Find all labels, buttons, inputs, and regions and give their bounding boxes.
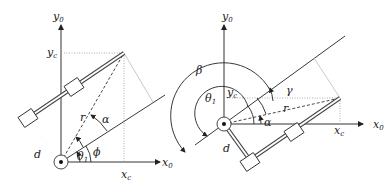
perpendicular-line (314, 58, 340, 98)
left-d-label: d (34, 148, 41, 161)
right-r-label: r (283, 102, 289, 115)
right-y0-label: y0 (221, 10, 233, 24)
right-alpha-label: α (264, 116, 272, 129)
right-gamma-label: γ (286, 84, 293, 97)
left-theta-label: θ1 (77, 150, 88, 164)
left-y0-label: y0 (52, 10, 64, 24)
inner-gamma-arc (257, 98, 266, 114)
right-panel: y0 x0 yc xc r α γ β θ1 d (171, 10, 385, 171)
robot-arm-kinematics-diagram: y0 x0 yc xc r α θ1 ϕ d (0, 0, 391, 189)
right-beta-label: β (195, 64, 202, 77)
beta-arc (171, 63, 270, 152)
right-xc-label: xc (334, 124, 344, 138)
left-panel: y0 x0 yc xc r α θ1 ϕ d (18, 10, 173, 182)
right-theta-label: θ1 (205, 92, 216, 106)
left-r-label: r (80, 111, 86, 124)
base-joint-center (59, 160, 63, 164)
base-joint-center (222, 122, 226, 126)
alpha-arc (260, 116, 261, 124)
left-x0-label: x0 (162, 156, 173, 170)
right-x0-label: x0 (373, 118, 384, 132)
left-yc-label: yc (46, 46, 57, 60)
theta-to-r-arc (76, 137, 83, 147)
right-d-label: d (223, 142, 230, 155)
small-arc (248, 106, 254, 124)
left-xc-label: xc (121, 168, 131, 182)
left-phi-label: ϕ (93, 146, 101, 159)
right-yc-label: yc (226, 86, 237, 100)
left-alpha-label: α (102, 113, 110, 126)
perpendicular-line (124, 53, 153, 102)
